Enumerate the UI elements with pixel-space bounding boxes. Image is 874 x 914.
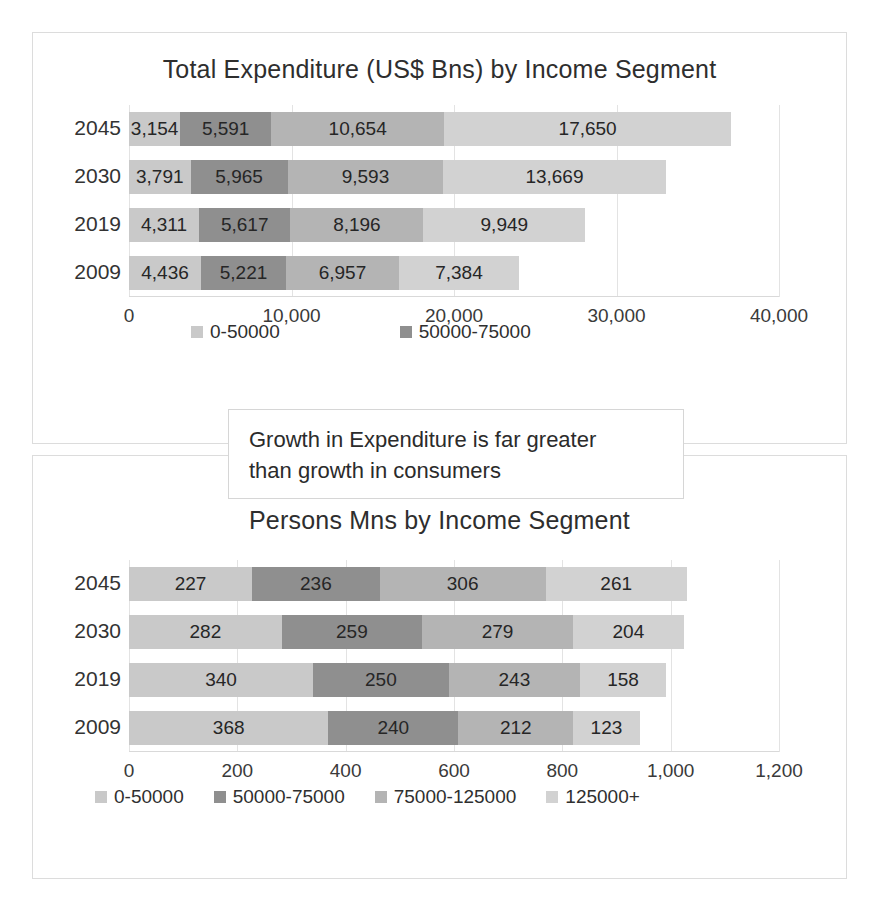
bar-segment: 10,654 <box>271 112 444 146</box>
bar-segment: 8,196 <box>290 208 423 242</box>
x-axis-tick-label: 30,000 <box>587 305 645 327</box>
x-axis-tick-label: 1,000 <box>647 760 695 782</box>
bar-segment: 259 <box>282 615 422 649</box>
bar-row: 368240212123 <box>129 711 779 745</box>
axis-line <box>129 296 779 297</box>
expenditure-chart-frame: Total Expenditure (US$ Bns) by Income Se… <box>32 32 847 444</box>
bar-segment: 282 <box>129 615 282 649</box>
bar-row: 282259279204 <box>129 615 779 649</box>
bar-row: 4,4365,2216,9577,384 <box>129 256 779 290</box>
category-label: 2019 <box>55 212 121 236</box>
axis-line <box>129 751 779 752</box>
x-axis-tick-label: 800 <box>546 760 578 782</box>
bar-segment: 123 <box>573 711 640 745</box>
x-axis-tick-label: 400 <box>330 760 362 782</box>
persons-chart-frame: Persons Mns by Income Segment 2272363062… <box>32 455 847 879</box>
callout-line-1: Growth in Expenditure is far greater <box>249 424 665 455</box>
x-axis-tick-label: 40,000 <box>750 305 808 327</box>
gridline <box>779 560 780 752</box>
legend-item[interactable]: 125000+ <box>546 786 640 808</box>
chart-title-expenditure: Total Expenditure (US$ Bns) by Income Se… <box>33 55 846 84</box>
legend-swatch-icon <box>191 326 203 338</box>
bar-segment: 243 <box>449 663 581 697</box>
bar-segment: 5,965 <box>191 160 288 194</box>
bar-segment: 5,221 <box>201 256 286 290</box>
legend-item[interactable]: 75000-125000 <box>375 786 517 808</box>
bar-segment: 5,591 <box>180 112 271 146</box>
legend-label: 75000-125000 <box>394 786 517 808</box>
bar-row: 340250243158 <box>129 663 779 697</box>
legend-swatch-icon <box>375 791 387 803</box>
slide-canvas: Total Expenditure (US$ Bns) by Income Se… <box>0 0 874 914</box>
expenditure-plot-area: 3,1545,59110,65417,6503,7915,9659,59313,… <box>129 105 779 297</box>
bar-segment: 212 <box>458 711 573 745</box>
bar-segment: 7,384 <box>399 256 519 290</box>
bar-segment: 17,650 <box>444 112 731 146</box>
bar-segment: 4,436 <box>129 256 201 290</box>
bar-segment: 204 <box>573 615 684 649</box>
legend-label: 125000+ <box>565 786 640 808</box>
legend-swatch-icon <box>214 791 226 803</box>
x-axis-tick-label: 0 <box>124 305 135 327</box>
x-axis-tick-label: 0 <box>124 760 135 782</box>
bar-segment: 250 <box>313 663 448 697</box>
legend-swatch-icon <box>546 791 558 803</box>
legend-swatch-icon <box>400 326 412 338</box>
bar-segment: 306 <box>380 567 546 601</box>
x-axis-tick-label: 600 <box>438 760 470 782</box>
bar-segment: 13,669 <box>443 160 665 194</box>
category-label: 2009 <box>55 715 121 739</box>
bar-segment: 340 <box>129 663 313 697</box>
bar-segment: 236 <box>252 567 380 601</box>
x-axis-tick-label: 20,000 <box>425 305 483 327</box>
legend-label: 50000-75000 <box>233 786 345 808</box>
bar-segment: 279 <box>422 615 573 649</box>
bar-segment: 9,949 <box>423 208 585 242</box>
bar-row: 227236306261 <box>129 567 779 601</box>
chart-title-persons: Persons Mns by Income Segment <box>33 506 846 535</box>
bar-segment: 227 <box>129 567 252 601</box>
callout-line-2: than growth in consumers <box>249 455 665 486</box>
bar-segment: 158 <box>580 663 666 697</box>
bar-row: 3,1545,59110,65417,650 <box>129 112 779 146</box>
category-label: 2030 <box>55 619 121 643</box>
legend-item[interactable]: 50000-75000 <box>214 786 345 808</box>
bar-row: 4,3115,6178,1969,949 <box>129 208 779 242</box>
x-axis-tick-label: 1,200 <box>755 760 803 782</box>
category-label: 2030 <box>55 164 121 188</box>
legend-label: 0-50000 <box>114 786 184 808</box>
bar-segment: 368 <box>129 711 328 745</box>
bar-segment: 240 <box>328 711 458 745</box>
legend-swatch-icon <box>95 791 107 803</box>
bar-segment: 261 <box>546 567 687 601</box>
category-label: 2019 <box>55 667 121 691</box>
callout-textbox: Growth in Expenditure is far greater tha… <box>228 409 684 499</box>
x-axis-tick-label: 200 <box>221 760 253 782</box>
persons-legend: 0-5000050000-7500075000-125000125000+ <box>95 786 640 808</box>
bar-segment: 3,154 <box>129 112 180 146</box>
category-label: 2045 <box>55 571 121 595</box>
x-axis-tick-label: 10,000 <box>262 305 320 327</box>
bar-segment: 4,311 <box>129 208 199 242</box>
bar-row: 3,7915,9659,59313,669 <box>129 160 779 194</box>
bar-segment: 9,593 <box>288 160 444 194</box>
bar-segment: 6,957 <box>286 256 399 290</box>
category-label: 2045 <box>55 116 121 140</box>
category-label: 2009 <box>55 260 121 284</box>
legend-item[interactable]: 0-50000 <box>95 786 184 808</box>
gridline <box>779 105 780 297</box>
bar-segment: 5,617 <box>199 208 290 242</box>
bar-segment: 3,791 <box>129 160 191 194</box>
persons-plot-area: 2272363062612822592792043402502431583682… <box>129 560 779 752</box>
